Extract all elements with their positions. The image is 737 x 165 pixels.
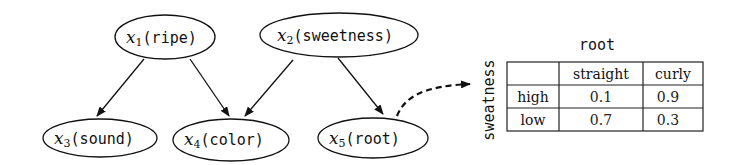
edge-x2-x4 (245, 60, 293, 116)
node-x5-root: x5(root) (318, 118, 428, 158)
cpt-row-label-low: low (521, 112, 546, 128)
cpt-cell: 0.1 (590, 89, 612, 105)
edge-x5-table-dashed (397, 84, 470, 116)
edges (97, 58, 470, 116)
edge-x1-x3 (97, 59, 144, 116)
cpt-column-title: root (579, 36, 615, 54)
svg-text:x2(sweetness): x2(sweetness) (277, 25, 393, 47)
node-x2-sweetness: x2(sweetness) (260, 13, 418, 57)
cpt-table: root sweatness straight curly high 0.1 0… (480, 36, 703, 141)
cpt-cell: 0.3 (657, 112, 679, 128)
cpt-col-header-curly: curly (655, 66, 691, 82)
edge-x2-x5 (338, 58, 383, 114)
cpt-cell: 0.9 (657, 89, 679, 105)
cpt-row-label-high: high (517, 89, 548, 105)
bayesian-network-figure: x1(ripe) x2(sweetness) x3(sound) x4(colo… (0, 0, 737, 165)
node-x3-sound: x3(sound) (43, 119, 157, 157)
node-x4-color: x4(color) (173, 119, 289, 161)
node-x1-ripe: x1(ripe) (115, 15, 215, 59)
cpt-row-title: sweatness (480, 59, 498, 140)
cpt-col-header-straight: straight (573, 66, 629, 82)
edge-x1-x4 (190, 59, 229, 116)
cpt-cell: 0.7 (590, 112, 612, 128)
